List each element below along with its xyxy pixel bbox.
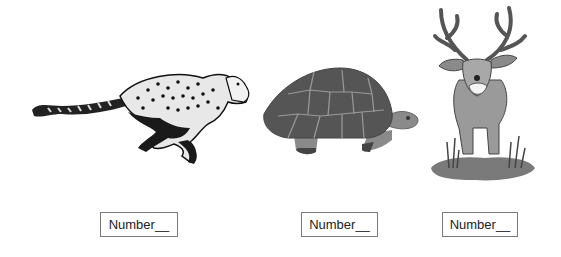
tortoise-image	[258, 64, 423, 159]
tortoise-number-box[interactable]: Number__	[301, 212, 378, 237]
cheetah-number-box[interactable]: Number__	[100, 212, 178, 237]
tortoise-number-label: Number__	[309, 217, 370, 232]
cheetah-number-label: Number__	[109, 217, 170, 232]
deer-number-box[interactable]: Number__	[442, 212, 518, 237]
cheetah-image	[28, 68, 253, 168]
deer-number-label: Number__	[450, 217, 511, 232]
deer-image	[425, 2, 540, 184]
